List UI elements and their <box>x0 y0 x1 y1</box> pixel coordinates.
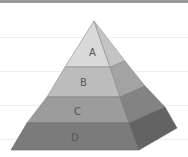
pyramid-diagram: A B C D <box>0 0 188 157</box>
level-d-label: D <box>71 132 79 143</box>
level-c-label: C <box>74 106 81 117</box>
pyramid-level-a: A <box>65 21 125 67</box>
level-b-label: B <box>80 77 87 88</box>
level-a-label: A <box>89 47 96 58</box>
